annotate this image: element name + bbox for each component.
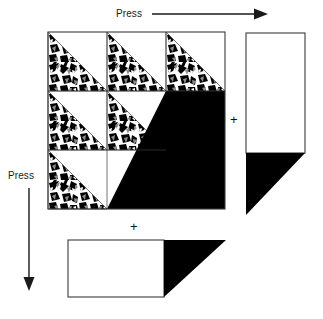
press-schematic-figure: Press Press + + <box>0 0 323 319</box>
right-column-bar <box>246 33 305 215</box>
bottom-row-rect <box>68 240 164 297</box>
right-column-black-triangle <box>246 153 305 215</box>
press-arrow-horizontal <box>152 9 268 20</box>
figure-vector-layer <box>0 0 323 319</box>
right-column-rect <box>246 33 305 153</box>
bottom-row-black-triangle <box>164 240 226 297</box>
bottom-row-bar <box>68 240 226 297</box>
press-arrow-vertical <box>24 188 35 291</box>
press-matrix <box>48 32 225 209</box>
